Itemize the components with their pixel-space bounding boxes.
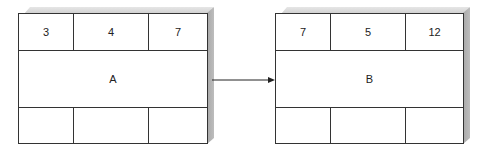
edge-a-to-b-arrow bbox=[0, 0, 488, 160]
